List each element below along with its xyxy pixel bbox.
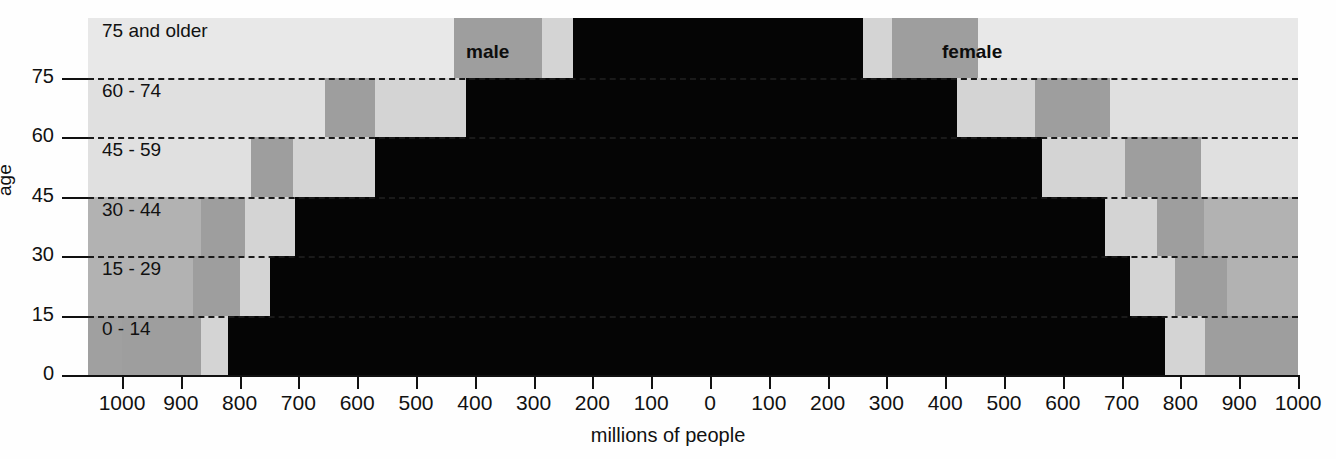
x-axis-line <box>88 375 1298 377</box>
x-axis-tick-label: 1000 <box>99 391 146 415</box>
bar-segment-male-black <box>270 256 710 316</box>
bar-segment-female-black <box>710 18 863 78</box>
x-axis-tick-label: 300 <box>516 391 551 415</box>
x-axis-tick-label: 600 <box>340 391 375 415</box>
x-axis-tick <box>886 375 888 389</box>
bar-segment-male-black <box>573 18 710 78</box>
x-axis-tick-label: 500 <box>398 391 433 415</box>
x-axis-tick <box>122 375 124 389</box>
age-band-caption: 75 and older <box>102 20 208 42</box>
male-label: male <box>466 41 509 63</box>
x-axis-tick-label: 200 <box>810 391 845 415</box>
bar-segment-female-black <box>710 78 957 138</box>
y-axis-tick-label: 60 <box>0 124 54 147</box>
age-band <box>88 316 1298 376</box>
x-axis-tick <box>357 375 359 389</box>
age-band-caption: 15 - 29 <box>102 258 161 280</box>
y-axis-tick-label: 75 <box>0 65 54 88</box>
x-axis-tick <box>1298 375 1300 389</box>
x-axis-tick <box>1063 375 1065 389</box>
x-axis-tick <box>1180 375 1182 389</box>
x-axis-tick-label: 100 <box>634 391 669 415</box>
x-axis-tick <box>181 375 183 389</box>
y-axis-tick <box>62 78 88 80</box>
x-axis-tick-label: 500 <box>986 391 1021 415</box>
x-axis-tick <box>416 375 418 389</box>
female-label: female <box>942 41 1002 63</box>
bar-segment-female-black <box>710 197 1105 257</box>
y-axis-tick <box>62 137 88 139</box>
age-band <box>88 18 1298 78</box>
x-axis-tick <box>769 375 771 389</box>
x-axis-tick <box>592 375 594 389</box>
age-band <box>88 256 1298 316</box>
bar-segment-male-black <box>228 316 710 376</box>
x-axis-tick <box>828 375 830 389</box>
x-axis-tick-label: 700 <box>281 391 316 415</box>
x-axis-tick <box>240 375 242 389</box>
age-band-caption: 30 - 44 <box>102 199 161 221</box>
x-axis-tick-label: 800 <box>1163 391 1198 415</box>
x-axis-tick-label: 200 <box>575 391 610 415</box>
x-axis-title: millions of people <box>0 424 1336 447</box>
age-band <box>88 137 1298 197</box>
x-axis-tick-label: 1000 <box>1275 391 1322 415</box>
age-band-caption: 45 - 59 <box>102 139 161 161</box>
x-axis-tick <box>298 375 300 389</box>
y-axis-tick <box>62 197 88 199</box>
x-axis-tick <box>945 375 947 389</box>
x-axis-tick-label: 0 <box>704 391 716 415</box>
x-axis-tick-label: 400 <box>928 391 963 415</box>
x-axis-tick-label: 600 <box>1045 391 1080 415</box>
bar-segment-female-black <box>710 137 1042 197</box>
bar-segment-male-black <box>466 78 710 138</box>
y-axis-tick <box>62 256 88 258</box>
population-pyramid-chart: 0 - 1415 - 2930 - 4445 - 5960 - 7475 and… <box>0 0 1336 459</box>
x-axis-tick-label: 100 <box>751 391 786 415</box>
x-axis-tick-label: 700 <box>1104 391 1139 415</box>
age-band-caption: 60 - 74 <box>102 80 161 102</box>
y-axis-tick-label: 15 <box>0 303 54 326</box>
bar-segment-male-black <box>375 137 710 197</box>
y-axis-tick <box>62 375 88 377</box>
plot-area: 0 - 1415 - 2930 - 4445 - 5960 - 7475 and… <box>88 18 1298 375</box>
x-axis-tick-label: 900 <box>1222 391 1257 415</box>
x-axis-tick <box>651 375 653 389</box>
x-axis-tick-label: 800 <box>222 391 257 415</box>
y-axis-tick <box>62 316 88 318</box>
y-axis-title: age <box>0 164 16 196</box>
y-axis-tick-label: 30 <box>0 243 54 266</box>
x-axis-tick <box>1004 375 1006 389</box>
age-band <box>88 78 1298 138</box>
bar-segment-female-black <box>710 256 1130 316</box>
x-axis-tick <box>1239 375 1241 389</box>
age-band-caption: 0 - 14 <box>102 318 151 340</box>
x-axis-tick <box>534 375 536 389</box>
x-axis-tick <box>710 375 712 389</box>
bar-segment-female-black <box>710 316 1165 376</box>
x-axis-tick <box>1122 375 1124 389</box>
x-axis-tick-label: 300 <box>869 391 904 415</box>
y-axis-tick-label: 0 <box>0 362 54 385</box>
bar-segment-male-black <box>295 197 710 257</box>
x-axis-tick-label: 400 <box>457 391 492 415</box>
age-band <box>88 197 1298 257</box>
x-axis-tick-label: 900 <box>163 391 198 415</box>
x-axis-tick <box>475 375 477 389</box>
